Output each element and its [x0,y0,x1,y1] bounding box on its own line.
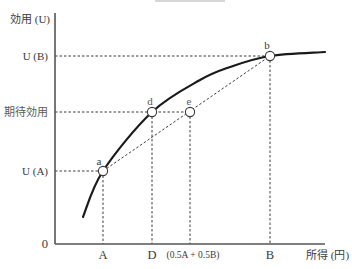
point-a-marker [98,166,107,175]
utility-curve [83,52,325,217]
y-tick-label: 期待効用 [4,105,48,118]
x-tick-label: A [98,248,107,262]
expected-utility-diagram: adebU (A)期待効用U (B)AD(0.5A + 0.5B)B効用 (U)… [0,0,352,269]
labels: adebU (A)期待効用U (B)AD(0.5A + 0.5B)B効用 (U)… [4,12,349,262]
point-b-marker [265,51,274,60]
y-axis-title: 効用 (U) [10,12,50,26]
point-d-label: d [147,95,153,107]
x-tick-label: (0.5A + 0.5B) [167,250,220,261]
axes [55,13,325,244]
origin-label: 0 [42,237,48,251]
point-e-marker [185,107,194,116]
point-b-label: b [264,39,270,51]
dashed-guide-lines [55,56,270,244]
y-tick-label: U (A) [22,165,48,178]
point-a-label: a [97,155,102,167]
point-d-marker [147,107,156,116]
utility-function-curve [83,52,325,217]
x-axis-title: 所得 (円) [306,249,349,262]
x-tick-label: B [266,248,274,262]
x-tick-label: D [147,248,156,262]
point-markers [98,51,274,175]
clipped-title-fragment [155,0,225,2]
point-e-label: e [187,95,192,107]
y-tick-label: U (B) [23,50,49,63]
